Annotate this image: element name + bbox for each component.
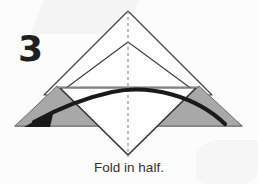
origami-step-diagram: 3 Fold in half. <box>0 0 258 184</box>
instruction-caption: Fold in half. <box>0 160 258 175</box>
step-number: 3 <box>18 31 42 67</box>
